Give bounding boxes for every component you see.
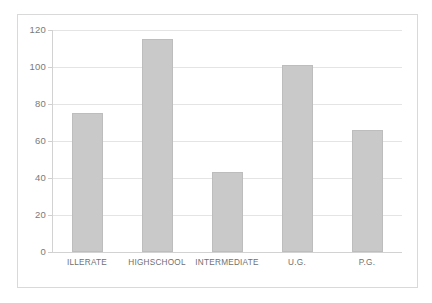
x-label-intermediate: INTERMEDIATE (195, 258, 258, 267)
y-tick-label-60: 60 (6, 135, 46, 146)
y-tick-label-80: 80 (6, 98, 46, 109)
y-tick-label-100: 100 (6, 61, 46, 72)
bar-intermediate (212, 172, 243, 252)
bar-p-g (352, 130, 383, 252)
y-tick-label-40: 40 (6, 172, 46, 183)
bar-highschool (142, 39, 173, 252)
x-label-highschool: HIGHSCHOOL (128, 258, 186, 267)
bar-chart: 020406080100120 ILLERATEHIGHSCHOOLINTERM… (0, 0, 432, 303)
y-axis-tick-labels: 020406080100120 (0, 0, 46, 303)
gridline-0 (52, 252, 402, 253)
x-label-illerate: ILLERATE (67, 258, 107, 267)
bar-u-g (282, 65, 313, 252)
x-axis-category-labels: ILLERATEHIGHSCHOOLINTERMEDIATEU.G.P.G. (52, 258, 402, 274)
bar-illerate (72, 113, 103, 252)
y-tick-label-20: 20 (6, 209, 46, 220)
plot-area (52, 30, 402, 252)
y-tick-label-0: 0 (6, 246, 46, 257)
x-label-u-g: U.G. (288, 258, 306, 267)
x-label-p-g: P.G. (359, 258, 375, 267)
y-tick-label-120: 120 (6, 24, 46, 35)
y-tick-mark-0 (48, 252, 52, 253)
